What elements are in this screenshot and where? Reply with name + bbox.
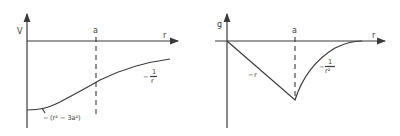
inner-formula: r bbox=[254, 71, 257, 79]
outer-formula-denominator: r bbox=[151, 77, 154, 85]
inner-formula-prefix: − bbox=[248, 71, 253, 79]
outer-formula-numerator: 1 bbox=[328, 58, 332, 66]
r-axis-label: r bbox=[163, 31, 167, 40]
inner-formula: (r² − 3a²) bbox=[50, 114, 81, 122]
outer-formula-prefix: − bbox=[143, 73, 148, 81]
boundary-label: a bbox=[292, 26, 297, 35]
potential-curve bbox=[27, 59, 170, 110]
g-axis-label: g bbox=[217, 20, 222, 29]
v-axis-label: V bbox=[17, 27, 23, 36]
diagram-canvas: V r a − (r² − 3a²) − 1 r g r a − r − 1 r… bbox=[0, 0, 400, 136]
field-plot: g r a − r − 1 r² bbox=[215, 14, 385, 128]
potential-plot: V r a − (r² − 3a²) − 1 r bbox=[17, 14, 178, 128]
outer-formula-numerator: 1 bbox=[152, 68, 156, 76]
outer-formula-denominator: r² bbox=[325, 67, 331, 75]
outer-formula-prefix: − bbox=[319, 63, 324, 71]
boundary-label: a bbox=[93, 26, 98, 35]
inner-formula-prefix: − bbox=[43, 114, 48, 122]
r-axis-label: r bbox=[372, 31, 376, 40]
